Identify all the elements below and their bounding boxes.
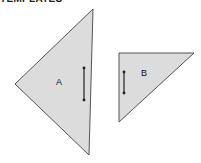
label-a: A bbox=[56, 77, 62, 87]
triangle-a: A bbox=[15, 9, 93, 155]
label-b: B bbox=[141, 68, 147, 78]
diagram-canvas: A B bbox=[0, 0, 201, 163]
triangle-b: B bbox=[119, 53, 194, 122]
